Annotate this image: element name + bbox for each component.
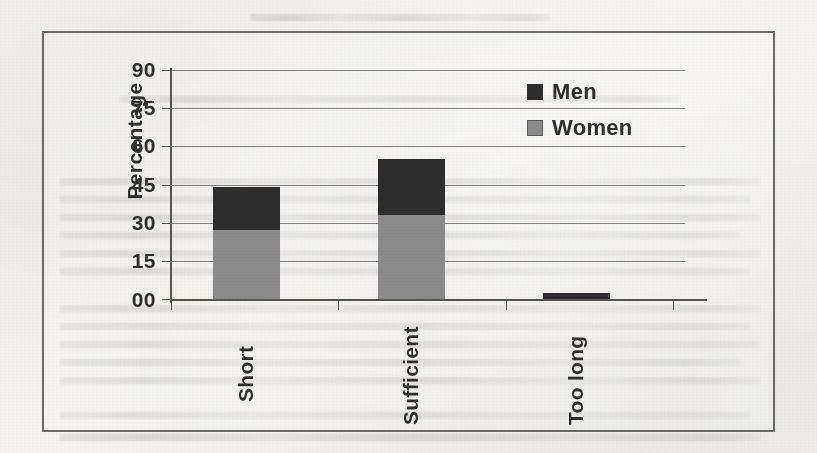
chart-figure-frame: 90 75 60 45 30 15 00 Percentage	[42, 31, 775, 432]
x-axis-tick	[506, 300, 507, 310]
bar-segment-women[interactable]	[213, 230, 280, 299]
x-axis-line	[170, 299, 707, 301]
y-tick-label-00: 00	[96, 289, 156, 310]
scanned-document-page: 90 75 60 45 30 15 00 Percentage	[0, 0, 817, 453]
bar-segment-men[interactable]	[378, 159, 445, 215]
legend-label-women: Women	[552, 115, 633, 141]
y-tick-label-15: 15	[96, 250, 156, 271]
gridline-60	[171, 146, 685, 147]
y-axis-title: Percentage	[123, 46, 147, 236]
x-axis-tick	[171, 300, 172, 310]
x-tick-label-sufficient: Sufficient	[399, 326, 423, 425]
bar-short[interactable]	[213, 187, 280, 299]
legend-swatch-women-icon	[527, 120, 543, 136]
x-tick-label-too-long: Too long	[564, 336, 588, 425]
x-tick-label-short: Short	[234, 346, 258, 402]
legend-swatch-men-icon	[527, 84, 543, 100]
bar-segment-men[interactable]	[213, 187, 280, 230]
x-axis-tick	[338, 300, 339, 310]
chart-legend: Men Women	[527, 74, 707, 146]
x-axis-tick	[673, 300, 674, 310]
legend-item-women[interactable]: Women	[527, 110, 707, 146]
legend-label-men: Men	[552, 79, 597, 105]
legend-item-men[interactable]: Men	[527, 74, 707, 110]
gridline-90	[171, 70, 685, 71]
bar-sufficient[interactable]	[378, 159, 445, 299]
bar-segment-women[interactable]	[378, 215, 445, 299]
